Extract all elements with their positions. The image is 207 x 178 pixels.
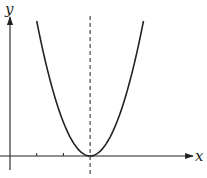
- parabola-chart: y x: [0, 0, 207, 178]
- x-axis-label: x: [195, 147, 204, 165]
- y-axis-label: y: [4, 0, 14, 18]
- plot-area: [37, 16, 144, 176]
- axes: [0, 17, 193, 170]
